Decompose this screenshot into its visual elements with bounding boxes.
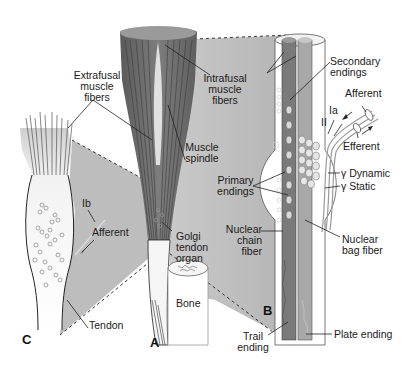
label-ib: Ib [82, 198, 91, 209]
label-ii: II [321, 117, 327, 128]
label-ia: Ia [329, 105, 338, 116]
nuclear-chain-fiber [282, 40, 296, 340]
label-afferent-c: Afferent [92, 227, 129, 238]
label-efferent: Efferent [343, 141, 380, 152]
label-plate-ending: Plate ending [334, 329, 392, 340]
label-trail-ending: Trail ending [236, 331, 270, 353]
panel-label-b: B [263, 303, 272, 318]
panel-label-a: A [150, 335, 159, 350]
label-secondary-endings: Secondary endings [330, 56, 380, 78]
label-nuclear-bag-fiber: Nuclear bag fiber [342, 234, 383, 256]
muscle-spindle-diagram: Extrafusal muscle fibers Intrafusal musc… [0, 0, 403, 365]
label-bone: Bone [176, 298, 201, 309]
label-muscle-spindle: Muscle spindle [182, 142, 222, 164]
label-golgi-tendon-organ: Golgi tendon organ [176, 231, 208, 264]
label-primary-endings: Primary endings [213, 175, 258, 197]
label-afferent-b: Afferent [345, 88, 382, 99]
label-gamma-static: γ Static [341, 181, 375, 192]
label-gamma-dynamic: γ Dynamic [341, 168, 390, 179]
muscle-cross-section [120, 26, 196, 40]
tendon-a [148, 240, 170, 345]
label-tendon: Tendon [89, 320, 123, 331]
label-intrafusal-muscle-fibers: Intrafusal muscle fibers [190, 73, 260, 106]
nuclear-bag-fiber [298, 40, 312, 340]
panel-label-c: C [22, 332, 31, 347]
label-nuclear-chain-fiber: Nuclear chain fiber [220, 224, 262, 257]
bag-nuclei [299, 136, 320, 188]
label-extrafusal-muscle-fibers: Extrafusal muscle fibers [52, 70, 142, 103]
